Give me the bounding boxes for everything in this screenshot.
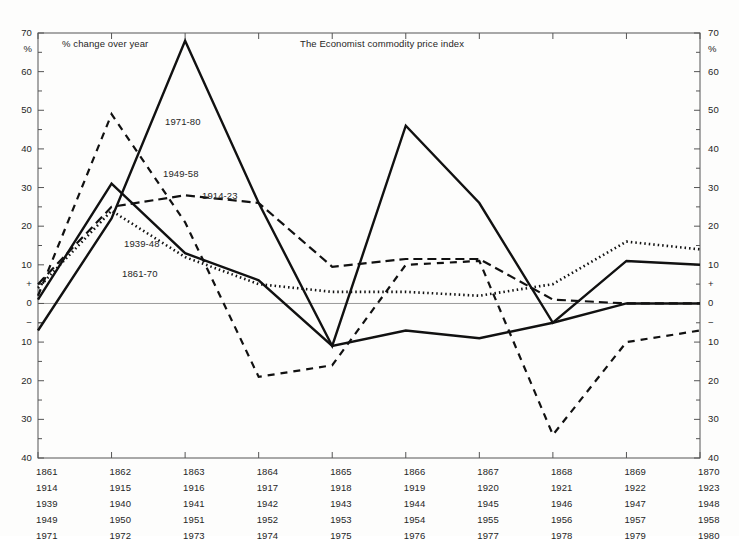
x-axis-label: 1941: [183, 498, 205, 509]
x-axis-label: 1916: [183, 482, 205, 493]
y-axis-label-left: 70: [0, 27, 32, 38]
x-axis-label: 1869: [624, 466, 646, 477]
y-axis-label-left: 40: [0, 143, 32, 154]
y-axis-label-left: 10: [0, 259, 32, 270]
x-axis-label: 1866: [404, 466, 426, 477]
y-axis-label-left: 50: [0, 104, 32, 115]
x-axis-label: 1972: [110, 530, 132, 541]
series-annotation-1914-23: 1914-23: [202, 190, 238, 201]
x-axis-label: 1942: [257, 498, 279, 509]
x-axis-label: 1953: [330, 514, 352, 525]
y-axis-label-right: 30: [708, 182, 739, 193]
x-axis-label: 1973: [183, 530, 205, 541]
x-axis-label: 1943: [330, 498, 352, 509]
x-axis-label: 1923: [698, 482, 720, 493]
y-axis-label-right: 60: [708, 66, 739, 77]
x-axis-label: 1979: [624, 530, 646, 541]
y-axis-label-right: 50: [708, 104, 739, 115]
x-axis-label: 1951: [183, 514, 205, 525]
y-axis-label-right: 10: [708, 259, 739, 270]
x-axis-label: 1915: [110, 482, 132, 493]
series-line-1971-80: [38, 41, 700, 346]
x-axis-label: 1920: [477, 482, 499, 493]
x-axis-label: 1865: [330, 466, 352, 477]
y-axis-label-right: +: [708, 278, 739, 289]
y-axis-label-right: 10: [708, 336, 739, 347]
x-axis-label: 1949: [36, 514, 58, 525]
x-axis-label: 1945: [477, 498, 499, 509]
series-annotation-1949-58: 1949-58: [163, 168, 199, 179]
y-axis-label-left: 60: [0, 66, 32, 77]
x-axis-label: 1864: [257, 466, 279, 477]
x-axis-label: 1978: [551, 530, 573, 541]
x-axis-label: 1939: [36, 498, 58, 509]
y-axis-label-left: %: [0, 43, 32, 54]
x-axis-label: 1940: [110, 498, 132, 509]
y-axis-label-left: 20: [0, 375, 32, 386]
y-axis-label-left: +: [0, 278, 32, 289]
x-axis-label: 1975: [330, 530, 352, 541]
x-axis-label: 1956: [551, 514, 573, 525]
x-axis-label: 1922: [624, 482, 646, 493]
x-axis-label: 1862: [110, 466, 132, 477]
y-axis-label-right: 70: [708, 27, 739, 38]
x-axis-label: 1977: [477, 530, 499, 541]
x-axis-label: 1919: [404, 482, 426, 493]
x-axis-label: 1870: [698, 466, 720, 477]
y-axis-label-right: %: [708, 43, 739, 54]
x-axis-label: 1952: [257, 514, 279, 525]
x-axis-label: 1917: [257, 482, 279, 493]
x-axis-label: 1955: [477, 514, 499, 525]
y-axis-label-right: 20: [708, 220, 739, 231]
y-axis-label-right: −: [708, 317, 739, 328]
caption-center: The Economist commodity price index: [300, 38, 464, 49]
x-axis-label: 1914: [36, 482, 58, 493]
x-axis-label: 1980: [698, 530, 720, 541]
x-axis-label: 1974: [257, 530, 279, 541]
series-annotation-1971-80: 1971-80: [165, 116, 201, 127]
series-annotation-1939-48: 1939-48: [124, 238, 160, 249]
series-line-1861-70: [38, 184, 700, 346]
x-axis-label: 1921: [551, 482, 573, 493]
x-axis-label: 1944: [404, 498, 426, 509]
y-axis-label-left: −: [0, 317, 32, 328]
caption-left: % change over year: [62, 38, 148, 49]
y-axis-label-right: 30: [708, 413, 739, 424]
y-axis-label-left: 20: [0, 220, 32, 231]
x-axis-label: 1863: [183, 466, 205, 477]
x-axis-label: 1918: [330, 482, 352, 493]
x-axis-label: 1861: [36, 466, 58, 477]
x-axis-label: 1868: [551, 466, 573, 477]
x-axis-label: 1954: [404, 514, 426, 525]
series-annotation-1861-70: 1861-70: [122, 268, 158, 279]
x-axis-label: 1976: [404, 530, 426, 541]
x-axis-label: 1867: [477, 466, 499, 477]
x-axis-label: 1971: [36, 530, 58, 541]
y-axis-label-left: 10: [0, 336, 32, 347]
x-axis-label: 1958: [698, 514, 720, 525]
x-axis-label: 1950: [110, 514, 132, 525]
x-axis-label: 1947: [624, 498, 646, 509]
y-axis-label-left: 30: [0, 182, 32, 193]
y-axis-label-right: 40: [708, 452, 739, 463]
y-axis-label-right: 40: [708, 143, 739, 154]
x-axis-label: 1948: [698, 498, 720, 509]
series-line-1914-23: [38, 195, 700, 303]
y-axis-label-left: 0: [0, 297, 32, 308]
y-axis-label-right: 20: [708, 375, 739, 386]
x-axis-label: 1946: [551, 498, 573, 509]
x-axis-label: 1957: [624, 514, 646, 525]
y-axis-label-right: 0: [708, 297, 739, 308]
y-axis-label-left: 30: [0, 413, 32, 424]
y-axis-label-left: 40: [0, 452, 32, 463]
